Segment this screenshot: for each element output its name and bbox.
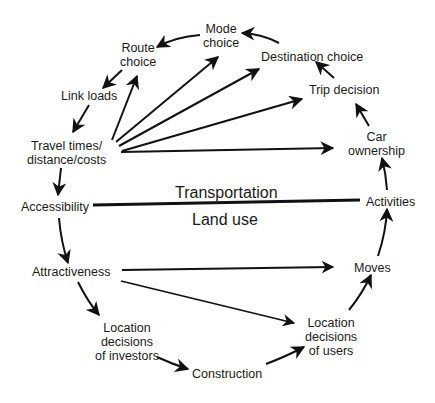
node-travel-times: Travel times/ distance/costs (27, 139, 106, 167)
band-label-transportation: Transportation (175, 184, 278, 202)
node-text: of investors (95, 349, 159, 363)
node-car-ownership: Car ownership (348, 130, 405, 158)
arrow-route-to-linkloads (103, 70, 122, 88)
arrow-attractiveness-to-users (121, 281, 294, 323)
node-destination-choice: Destination choice (261, 50, 363, 64)
node-location-investors: Location decisions of investors (95, 321, 159, 363)
node-text: Travel times/ (27, 139, 106, 153)
node-text: choice (120, 55, 156, 69)
arrow-investors-to-construction (157, 357, 188, 369)
node-text: Route (120, 41, 156, 55)
node-text: Mode (203, 22, 239, 36)
node-text: Location (95, 321, 159, 335)
arrow-users-to-moves (349, 275, 371, 310)
node-text: choice (203, 36, 239, 50)
arrow-linkloads-to-traveltimes (73, 105, 89, 132)
node-location-users: Location decisions of users (305, 316, 357, 358)
node-text: Link loads (61, 89, 117, 103)
node-text: Moves (354, 261, 391, 275)
node-moves: Moves (354, 261, 391, 275)
node-route-choice: Route choice (120, 41, 156, 69)
node-accessibility: Accessibility (21, 200, 89, 214)
node-text: ownership (348, 144, 405, 158)
arrow-traveltimes-to-route (112, 76, 137, 140)
arrow-activities-to-car (382, 158, 387, 190)
node-text: Activities (366, 195, 415, 209)
arrow-traveltimes-to-car (121, 148, 333, 152)
node-trip-decision: Trip decision (309, 83, 379, 97)
arrow-traveltimes-to-accessibility (58, 168, 61, 195)
arrow-trip-to-destination (316, 62, 334, 78)
arrow-construction-to-users (266, 347, 304, 364)
node-text: decisions (95, 335, 159, 349)
node-text: Attractiveness (32, 265, 111, 279)
node-text: Car (348, 130, 405, 144)
arrow-mode-to-route (157, 35, 200, 47)
arrow-destination-to-mode (242, 33, 279, 43)
node-activities: Activities (366, 195, 415, 209)
node-link-loads: Link loads (61, 89, 117, 103)
arrow-attractiveness-to-moves (122, 267, 333, 270)
arrow-accessibility-to-attractiveness (59, 218, 68, 263)
arrow-attractiveness-to-investors (78, 282, 99, 315)
node-text: Location (305, 316, 357, 330)
node-attractiveness: Attractiveness (32, 265, 111, 279)
node-text: distance/costs (27, 153, 106, 167)
arrow-traveltimes-to-trip (122, 99, 302, 151)
node-text: Accessibility (21, 200, 89, 214)
node-text: Trip decision (309, 83, 379, 97)
band-label-land-use: Land use (192, 211, 258, 229)
node-text: of users (305, 344, 357, 358)
node-mode-choice: Mode choice (203, 22, 239, 50)
node-construction: Construction (192, 367, 262, 381)
feedback-cycle-diagram: Transportation Land use Route choice Mod… (0, 0, 435, 403)
node-text: decisions (305, 330, 357, 344)
arrow-car-to-trip (356, 104, 369, 126)
node-text: Destination choice (261, 50, 363, 64)
node-text: Construction (192, 367, 262, 381)
arrow-moves-to-activities (378, 209, 387, 256)
